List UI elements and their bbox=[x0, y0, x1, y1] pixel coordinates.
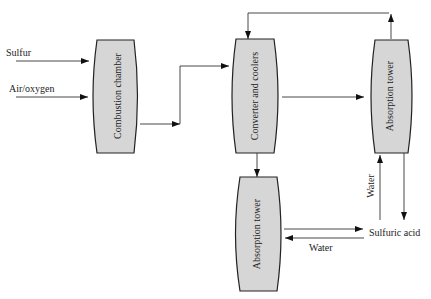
absorption-tower-bottom-vessel: Absorption tower bbox=[236, 177, 282, 291]
absorption-tower-right-vessel: Absorption tower bbox=[371, 40, 412, 153]
recycle-to-converter-line bbox=[248, 13, 389, 39]
sulfur-label: Sulfur bbox=[6, 47, 32, 58]
absorption-tower-bottom-label: Absorption tower bbox=[251, 198, 262, 269]
combustion-to-converter-line bbox=[180, 66, 229, 124]
process-flow-diagram: Sulfur Air/oxygen Combustion chamber Con… bbox=[0, 0, 431, 299]
converter-coolers-vessel: Converter and coolers bbox=[232, 39, 278, 153]
water-right-label: Water bbox=[365, 174, 376, 198]
converter-coolers-label: Converter and coolers bbox=[249, 52, 260, 140]
combustion-chamber-label: Combustion chamber bbox=[112, 52, 123, 138]
air-oxygen-label: Air/oxygen bbox=[9, 83, 55, 94]
water-bottom-label: Water bbox=[309, 242, 333, 253]
combustion-chamber-vessel: Combustion chamber bbox=[93, 40, 138, 153]
sulfuric-acid-label: Sulfuric acid bbox=[369, 227, 420, 238]
absorption-tower-right-label: Absorption tower bbox=[384, 60, 395, 131]
